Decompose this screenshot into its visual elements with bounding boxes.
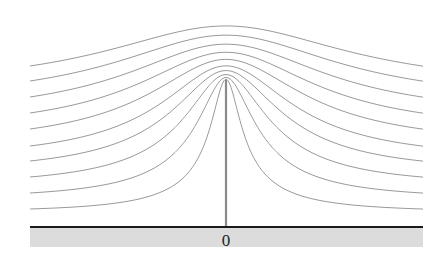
origin-label: 0	[222, 231, 231, 250]
flow-diagram: 0	[0, 0, 441, 262]
streamline	[30, 26, 423, 66]
